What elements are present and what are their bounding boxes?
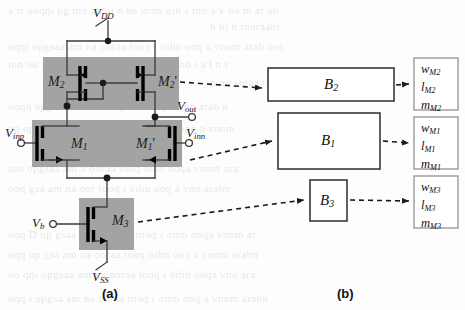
vinp-label: Vinp xyxy=(5,126,24,141)
connector-m3-to-b3 xyxy=(138,200,304,222)
connector-m1-to-b1 xyxy=(190,141,272,160)
params-m3-text: wM3 lM3 mM3 xyxy=(421,180,441,234)
param-row: mM2 xyxy=(421,98,441,116)
transistor-m1-label: M1 xyxy=(71,137,87,153)
transistor-m3-label: M3 xyxy=(112,214,128,230)
figure-svg xyxy=(0,0,465,310)
transistor-m1-prime-label: M1' xyxy=(136,137,155,153)
connector-m2-to-b2 xyxy=(180,82,262,88)
vinn-label: Vinn xyxy=(186,126,205,141)
vdd-label: VDD xyxy=(93,6,114,21)
param-row: wM2 xyxy=(421,62,441,80)
junction-tail xyxy=(104,175,111,182)
vb-label: Vb xyxy=(32,216,44,231)
block-b2-label: B2 xyxy=(324,76,338,93)
connector-b3-to-params-m3 xyxy=(350,200,409,201)
figure-container: a tr ooqqi pg tuo ah oi n be uroo oih s … xyxy=(0,0,465,310)
transistor-m2-label: M2 xyxy=(48,75,64,91)
caption-b: (b) xyxy=(337,286,354,301)
params-m1-text: wM1 lM1 mM1 xyxy=(421,121,441,175)
param-row: lM2 xyxy=(421,80,441,98)
terminal-vout xyxy=(189,114,196,121)
connector-b1-to-params-m1 xyxy=(383,141,409,143)
param-row: lM1 xyxy=(421,139,441,157)
param-row: wM1 xyxy=(421,121,441,139)
params-m2-text: wM2 lM2 mM2 xyxy=(421,62,441,116)
junction-output xyxy=(152,114,159,121)
param-row: wM3 xyxy=(421,180,441,198)
vss-label: VSS xyxy=(92,270,109,285)
vout-label: Vout xyxy=(177,99,196,114)
junction-vdd xyxy=(105,38,111,44)
junction-gate-node xyxy=(100,80,106,86)
param-row: mM1 xyxy=(421,157,441,175)
block-b3-label: B3 xyxy=(320,192,334,209)
param-row: mM3 xyxy=(421,216,441,234)
terminal-vb xyxy=(50,221,57,228)
caption-a: (a) xyxy=(102,286,118,301)
param-row: lM3 xyxy=(421,198,441,216)
junction-left-branch xyxy=(64,103,71,110)
transistor-m2-prime-label: M2' xyxy=(158,75,177,91)
connector-b2-to-params-m2 xyxy=(396,84,409,85)
block-b1-label: B1 xyxy=(321,132,335,149)
